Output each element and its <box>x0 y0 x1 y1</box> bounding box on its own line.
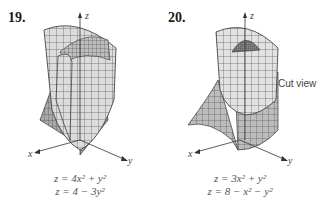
z-axis-label: z <box>85 10 89 21</box>
problem-20: 20. z x y <box>160 0 320 206</box>
surface-intersection-figure <box>0 0 160 170</box>
equation-2: z = 8 − x² − y² <box>160 185 320 198</box>
problem-19: 19. z <box>0 0 160 206</box>
equation-1: z = 4x² + y² <box>0 172 160 185</box>
y-axis-label: y <box>288 155 292 166</box>
z-axis-label: z <box>250 10 254 21</box>
cut-view-label: Cut view <box>278 78 316 89</box>
x-axis-label: x <box>28 148 32 159</box>
x-axis-label: x <box>188 148 192 159</box>
y-axis-label: y <box>128 155 132 166</box>
equation-2: z = 4 − 3y² <box>0 185 160 198</box>
equation-1: z = 3x² + y² <box>160 172 320 185</box>
